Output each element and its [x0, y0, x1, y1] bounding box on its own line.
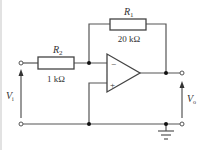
vout-arrow-icon [180, 81, 185, 118]
resistor-r1: R1 20 kΩ [110, 6, 146, 44]
vout-label: Vo [187, 93, 196, 105]
junction-node-inverting [87, 61, 91, 65]
circuit-diagram: R2 1 kΩ R1 20 kΩ − + V [0, 0, 205, 150]
r2-value: 1 kΩ [47, 74, 65, 84]
vin-arrow-icon [19, 69, 24, 118]
junction-node-output [164, 71, 168, 75]
output-terminal-bottom [180, 122, 184, 126]
input-terminal-top [19, 61, 23, 65]
input-terminal-bottom [19, 122, 23, 126]
output-terminal-top [180, 71, 184, 75]
junction-node-bottom-left [87, 122, 91, 126]
vin-label: Vi [6, 90, 14, 102]
inverting-input-sign: − [111, 59, 116, 69]
r2-label: R2 [52, 44, 63, 57]
junction-node-ground [164, 122, 168, 126]
resistor-r2: R2 1 kΩ [38, 44, 74, 84]
r1-label: R1 [123, 6, 134, 19]
ground-icon [158, 124, 174, 139]
noninverting-wire [89, 83, 107, 124]
r1-value: 20 kΩ [118, 34, 141, 44]
noninverting-input-sign: + [110, 80, 115, 90]
op-amp: − + [107, 54, 140, 92]
